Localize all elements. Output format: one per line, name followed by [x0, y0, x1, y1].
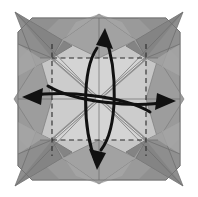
- origami-diagram-figure: Origami folding diagram step Square orig…: [0, 0, 198, 197]
- origami-svg-canvas: Origami folding diagram step Square orig…: [0, 0, 198, 197]
